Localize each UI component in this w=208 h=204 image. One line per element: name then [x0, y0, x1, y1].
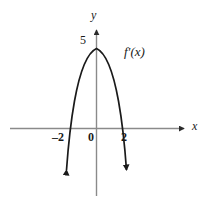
curve-label-f-prime: f'(x): [124, 45, 145, 58]
y-axis-label: y: [91, 9, 96, 21]
x-axis-label: x: [192, 120, 197, 132]
origin-label: 0: [88, 131, 94, 143]
x-tick-label-2: 2: [121, 131, 127, 143]
y-tick-label-5: 5: [80, 34, 86, 46]
plot-canvas: [0, 0, 208, 204]
graph-figure: y x f'(x) 5 –2 0 2: [0, 0, 208, 204]
x-tick-label-negative-2: –2: [52, 131, 64, 143]
